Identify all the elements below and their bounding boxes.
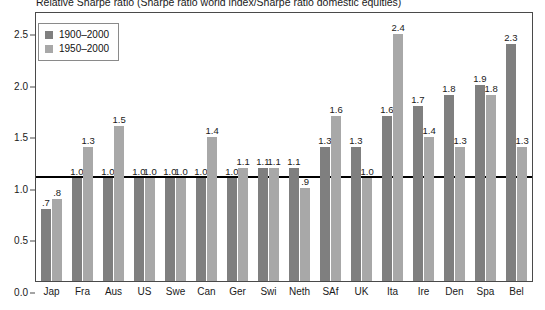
x-axis-tick-label: SAf: [322, 286, 338, 298]
x-axis-tick-label: Spa: [477, 286, 495, 298]
bar: [486, 95, 496, 281]
bar-value-label: 1.0: [174, 167, 187, 177]
x-axis-labels: JapFraAusUSSweCanGerSwiNethSAfUKItaIreDe…: [35, 286, 533, 306]
bar: [455, 147, 465, 281]
bar: [382, 116, 392, 281]
bar: [393, 34, 403, 281]
bar: [207, 137, 217, 281]
bar-value-label: 1.0: [225, 167, 238, 177]
bar: [227, 178, 237, 281]
x-axis-tick-label: US: [138, 286, 152, 298]
legend-item-label: 1950–2000: [59, 44, 109, 54]
y-axis-tick-label: 1.5: [14, 133, 28, 143]
bar: [114, 126, 124, 281]
bar-value-label: 1.3: [453, 136, 466, 146]
x-axis-tick-label: Bel: [509, 286, 523, 298]
legend-swatch-icon: [45, 31, 53, 39]
bar-value-label: 1.1: [267, 157, 280, 167]
bar-value-label: 1.4: [205, 126, 218, 136]
bar: [83, 147, 93, 281]
bar-value-label: 1.6: [380, 105, 393, 115]
chart-legend: 1900–2000 1950–2000: [38, 23, 119, 61]
x-axis-tick-label: Swi: [260, 286, 276, 298]
bar-value-label: 1.0: [194, 167, 207, 177]
bar-value-label: 1.8: [442, 84, 455, 94]
bar-value-label: 2.4: [391, 23, 404, 33]
x-axis-tick-label: Fra: [75, 286, 90, 298]
bar: [300, 188, 310, 281]
bar: [134, 178, 144, 281]
x-axis-tick-label: Aus: [105, 286, 122, 298]
bar: [238, 168, 248, 281]
bar: [176, 178, 186, 281]
bar-value-label: 1.0: [360, 167, 373, 177]
bar: [41, 209, 51, 281]
bar-value-label: .9: [301, 177, 309, 187]
x-axis-tick-label: Ger: [229, 286, 246, 298]
y-axis-tick-label: 2.0: [14, 82, 28, 92]
bar-value-label: 1.3: [81, 136, 94, 146]
bar: [320, 147, 330, 281]
x-axis-tick-label: Ire: [418, 286, 430, 298]
bar-value-label: 1.0: [70, 167, 83, 177]
bar-value-label: 1.8: [484, 84, 497, 94]
legend-item: 1900–2000: [45, 28, 109, 42]
bar-value-label: .7: [42, 198, 50, 208]
bar-value-label: 1.1: [287, 157, 300, 167]
x-axis-tick-label: Can: [197, 286, 215, 298]
bar: [475, 85, 485, 281]
bar: [517, 147, 527, 281]
bar-value-label: 2.3: [504, 33, 517, 43]
y-axis-tick-label: 0.5: [14, 236, 28, 246]
legend-item: 1950–2000: [45, 42, 109, 56]
y-axis: 0.00.51.01.52.02.5: [0, 12, 35, 283]
bar-value-label: 1.7: [411, 95, 424, 105]
bar-value-label: .8: [53, 188, 61, 198]
bar: [362, 178, 372, 281]
bar: [269, 168, 279, 281]
x-axis-tick-label: Den: [445, 286, 463, 298]
legend-swatch-icon: [45, 45, 53, 53]
chart-title: Relative Sharpe ratio (Sharpe ratio worl…: [36, 0, 401, 8]
bar-value-label: 1.1: [236, 157, 249, 167]
bar: [196, 178, 206, 281]
bar-value-label: 1.3: [349, 136, 362, 146]
bar-value-label: 1.0: [143, 167, 156, 177]
bar: [444, 95, 454, 281]
bar-value-label: 1.6: [329, 105, 342, 115]
x-axis-tick-label: Jap: [43, 286, 59, 298]
bar: [258, 168, 268, 281]
y-axis-tick-label: 2.5: [14, 30, 28, 40]
bar-value-label: 1.3: [515, 136, 528, 146]
bar: [331, 116, 341, 281]
bar: [424, 137, 434, 281]
bar-value-label: 1.0: [101, 167, 114, 177]
y-axis-tick-label: 1.0: [14, 185, 28, 195]
chart-root: Relative Sharpe ratio (Sharpe ratio worl…: [0, 0, 545, 310]
x-axis-tick-label: Swe: [166, 286, 185, 298]
x-axis-tick-label: UK: [355, 286, 369, 298]
bar: [72, 178, 82, 281]
legend-item-label: 1900–2000: [59, 30, 109, 40]
bar-value-label: 1.3: [318, 136, 331, 146]
bar: [145, 178, 155, 281]
bar-value-label: 1.5: [112, 115, 125, 125]
bar-value-label: 1.4: [422, 126, 435, 136]
bar: [103, 178, 113, 281]
bar: [165, 178, 175, 281]
bar: [52, 199, 62, 281]
bar: [289, 168, 299, 281]
y-axis-tick-label: 0.0: [14, 288, 28, 298]
x-axis-tick-label: Neth: [289, 286, 310, 298]
bar: [506, 44, 516, 281]
x-axis-tick-label: Ita: [387, 286, 398, 298]
